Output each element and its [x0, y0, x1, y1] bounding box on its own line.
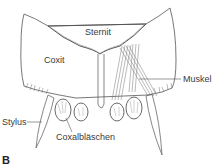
panel-label: B: [2, 155, 10, 166]
abdominal-segment-diagram: [0, 0, 219, 168]
label-stylus: Stylus: [2, 118, 27, 127]
coxalblaeschen: [55, 97, 142, 121]
label-coxalblaeschen: Coxalbläschen: [56, 133, 115, 142]
stylus-left: [36, 95, 54, 148]
median-suture: [98, 54, 104, 108]
muskel-bundles: [112, 44, 157, 100]
stylus-right: [146, 94, 162, 155]
label-coxit: Coxit: [44, 56, 65, 65]
label-sternit: Sternit: [85, 28, 111, 37]
label-muskel: Muskel: [183, 75, 212, 84]
